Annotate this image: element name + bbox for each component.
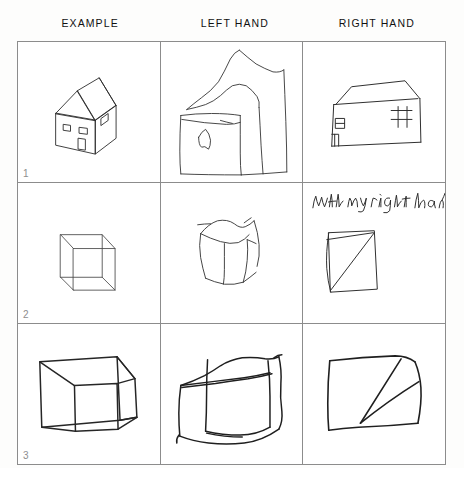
cell-row2-right-hand: With my right hand <box>303 183 445 323</box>
column-header-example: EXAMPLE <box>17 14 163 34</box>
scan-bottom-edge <box>0 468 464 488</box>
cell-row1-left-hand <box>161 42 304 182</box>
table-row: 1 <box>18 42 445 183</box>
cell-row3-example: 3 <box>18 324 161 464</box>
house-left-hand-copy-drawing <box>161 42 303 182</box>
row-number-2: 2 <box>23 309 29 321</box>
house-3d-example-drawing <box>18 42 160 182</box>
cell-row2-left-hand <box>161 183 304 323</box>
cube-large-example-drawing <box>18 324 160 464</box>
cube-large-right-hand-copy-drawing <box>303 324 445 464</box>
house-right-hand-copy-drawing <box>303 42 445 182</box>
cell-row3-right-hand <box>303 324 445 464</box>
table-row: 2 <box>18 183 445 324</box>
row-number-1: 1 <box>23 168 29 180</box>
row-number-3: 3 <box>23 450 29 462</box>
column-header-right-hand: RIGHT HAND <box>307 14 447 34</box>
cell-row2-example: 2 <box>18 183 161 323</box>
table-row: 3 <box>18 324 445 464</box>
cube-right-hand-copy-drawing <box>303 183 445 323</box>
cube-left-hand-copy-drawing <box>161 183 303 323</box>
test-sheet: EXAMPLE LEFT HAND RIGHT HAND <box>0 0 464 488</box>
drawing-grid: 1 <box>17 41 446 465</box>
cube-wireframe-example-drawing <box>18 183 160 323</box>
column-header-left-hand: LEFT HAND <box>163 14 306 34</box>
cube-large-left-hand-copy-drawing <box>161 324 303 464</box>
cell-row1-right-hand <box>303 42 445 182</box>
cell-row1-example: 1 <box>18 42 161 182</box>
cell-row3-left-hand <box>161 324 304 464</box>
column-headers: EXAMPLE LEFT HAND RIGHT HAND <box>17 14 447 34</box>
